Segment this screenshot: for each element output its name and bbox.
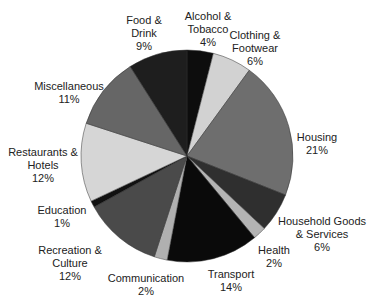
slice-label: Health2% [258,244,290,270]
slice-label: Transport14% [208,268,255,294]
slice-percent: 6% [230,55,281,68]
slice-name: Restaurants & [8,146,78,159]
slice-name: Footwear [230,42,281,55]
slice-percent: 12% [38,270,102,283]
slice-name: Tobacco [185,23,231,36]
slice-percent: 12% [8,172,78,185]
slice-label: Household Goods& Services6% [278,215,366,254]
slice-label: Food &Drink9% [126,14,161,53]
slice-label: Alcohol &Tobacco4% [185,10,231,49]
slice-percent: 1% [38,217,87,230]
slice-name: Alcohol & [185,10,231,23]
slice-name: Culture [38,257,102,270]
slice-percent: 6% [278,241,366,254]
slice-label: Education1% [38,204,87,230]
slice-percent: 2% [258,257,290,270]
slice-name: Recreation & [38,244,102,257]
slice-label: Communication2% [108,272,184,298]
slice-label: Clothing &Footwear6% [230,29,281,68]
slice-name: Clothing & [230,29,281,42]
slice-name: Household Goods [278,215,366,228]
slice-name: Transport [208,268,255,281]
slice-name: Drink [126,27,161,40]
slice-label: Recreation &Culture12% [38,244,102,283]
slice-percent: 4% [185,36,231,49]
slice-percent: 9% [126,40,161,53]
slice-percent: 21% [297,144,337,157]
slice-percent: 14% [208,281,255,294]
slice-percent: 11% [34,93,104,106]
slice-name: Education [38,204,87,217]
slice-percent: 2% [108,285,184,298]
slice-name: Communication [108,272,184,285]
slice-label: Miscellaneous11% [34,80,104,106]
slice-name: Miscellaneous [34,80,104,93]
slice-name: & Services [278,228,366,241]
slice-label: Housing21% [297,131,337,157]
slice-name: Food & [126,14,161,27]
slice-label: Restaurants &Hotels12% [8,146,78,185]
slice-name: Hotels [8,159,78,172]
slice-name: Housing [297,131,337,144]
slice-name: Health [258,244,290,257]
